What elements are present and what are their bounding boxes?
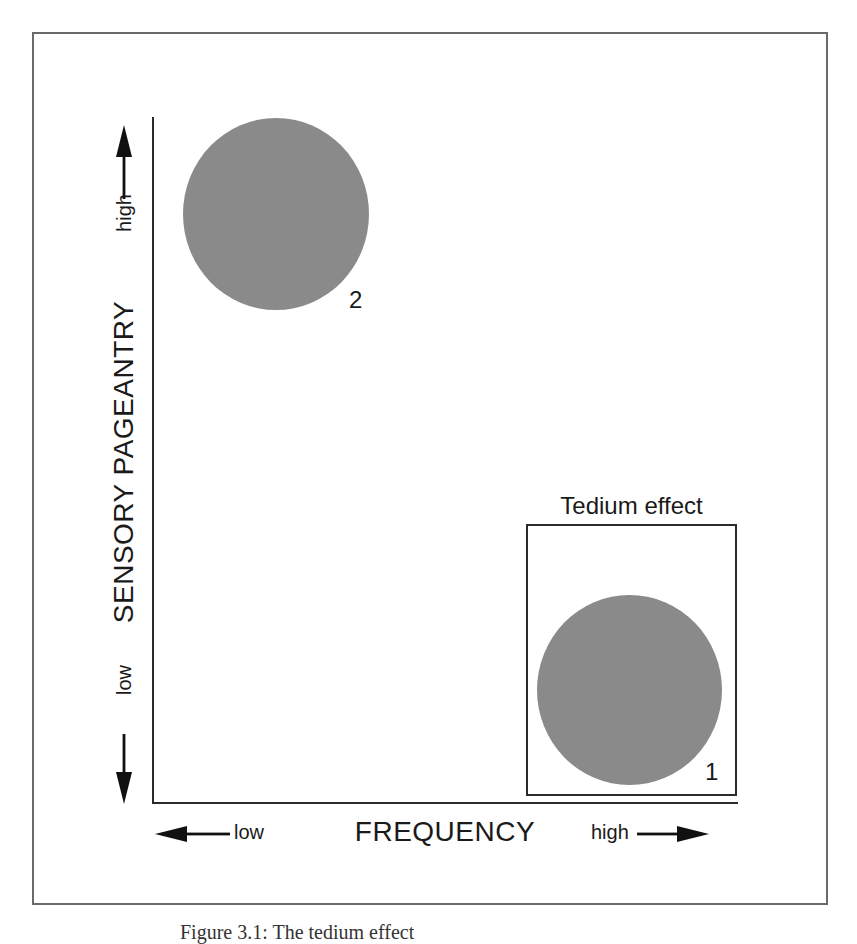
figure-caption: Figure 3.1: The tedium effect bbox=[180, 920, 414, 944]
y-axis-title: SENSORY PAGEANTRY bbox=[108, 301, 140, 623]
x-axis-high-label: high bbox=[591, 820, 629, 844]
data-point-1-label: 1 bbox=[705, 760, 718, 784]
arrow-down-icon bbox=[114, 734, 134, 804]
data-point-1 bbox=[537, 595, 722, 785]
arrow-left-icon bbox=[155, 824, 230, 844]
y-axis-line bbox=[152, 117, 154, 804]
x-axis-low-label: low bbox=[234, 820, 264, 844]
arrow-up-icon bbox=[114, 125, 134, 200]
arrow-right-icon bbox=[637, 824, 709, 844]
data-point-2 bbox=[183, 118, 369, 310]
x-axis-line bbox=[152, 802, 738, 804]
data-point-2-label: 2 bbox=[349, 288, 362, 312]
tedium-effect-title: Tedium effect bbox=[526, 492, 737, 520]
y-axis-low-label: low bbox=[112, 665, 136, 695]
x-axis-title: FREQUENCY bbox=[300, 815, 590, 849]
